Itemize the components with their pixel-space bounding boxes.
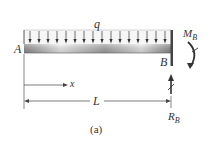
figure-caption: (a) xyxy=(90,123,102,135)
load-label-q: q xyxy=(94,18,100,30)
beam xyxy=(24,44,171,53)
length-label-l: L xyxy=(93,95,100,107)
moment-label-sub: B xyxy=(192,33,197,42)
reaction-label-main: R xyxy=(168,110,175,122)
x-axis-arrow xyxy=(24,83,68,87)
moment-arrow-icon xyxy=(187,42,198,69)
end-label-b: B xyxy=(160,56,167,68)
reaction-label: RB xyxy=(168,111,180,125)
x-coordinate-label: x xyxy=(70,79,74,89)
reaction-arrow-icon xyxy=(168,74,174,94)
moment-label: MB xyxy=(183,28,197,42)
fixed-support-wall xyxy=(171,30,174,66)
moment-label-main: M xyxy=(183,27,192,39)
distributed-load xyxy=(24,30,171,44)
end-label-a: A xyxy=(14,43,21,55)
reaction-label-sub: B xyxy=(175,116,180,125)
